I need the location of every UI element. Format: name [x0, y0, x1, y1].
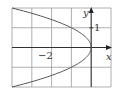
- tick-label-y-1: 1: [94, 22, 100, 33]
- axes: [12, 7, 112, 87]
- x-axis-label: x: [106, 51, 112, 62]
- y-axis-label: y: [82, 7, 89, 18]
- parabola-chart: y x 1 −2: [0, 0, 118, 92]
- tick-label-x-neg2: −2: [38, 50, 53, 61]
